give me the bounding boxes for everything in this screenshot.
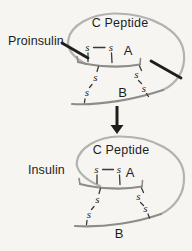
disulfide-link-tick: [142, 188, 144, 193]
disulfide-s-label: s: [142, 82, 146, 94]
disulfide-bond-line: [90, 85, 93, 88]
diagram-canvas: s s s s s s C Peptide Proinsulin A B: [0, 0, 192, 251]
disulfide-link-tick: [112, 53, 113, 63]
disulfide-s-label: s: [143, 202, 147, 214]
disulfide-s-label: s: [134, 68, 138, 80]
disulfide-s-label: s: [87, 208, 91, 220]
proinsulin-label: Proinsulin: [8, 34, 64, 48]
disulfide-s-label: s: [85, 41, 89, 53]
disulfide-s-label: s: [117, 163, 121, 175]
disulfide-s-label: s: [94, 163, 98, 175]
proinsulin-to-insulin-figure: s s s s s s C Peptide Proinsulin A B: [0, 0, 192, 251]
a-chain-end-tick: [77, 57, 78, 63]
cleavage-site-mark: [151, 61, 181, 78]
a-chain: [78, 62, 140, 67]
c-peptide-label: C Peptide: [92, 16, 149, 30]
disulfide-s-label: s: [136, 190, 140, 202]
a-chain-end-tick: [140, 59, 141, 65]
proinsulin-diagram: s s s s s s C Peptide Proinsulin A B: [8, 13, 184, 104]
insulin-diagram: s s s s s s C Peptide Insulin A B: [28, 136, 184, 241]
down-arrow-icon: [111, 106, 124, 134]
arrow-head: [111, 125, 124, 134]
a-chain-label: A: [126, 165, 135, 180]
disulfide-s-label: s: [85, 86, 89, 98]
disulfide-link-tick: [120, 175, 121, 185]
insulin-label: Insulin: [28, 163, 65, 177]
c-peptide-label: C Peptide: [93, 143, 150, 157]
a-chain-end-tick: [79, 179, 80, 185]
disulfide-s-label: s: [93, 71, 97, 83]
b-chain-label: B: [115, 226, 124, 241]
a-chain: [80, 184, 142, 189]
disulfide-link-tick: [140, 66, 142, 71]
disulfide-bond-line: [92, 207, 95, 210]
disulfide-s-label: s: [109, 41, 113, 53]
a-chain-label: A: [124, 43, 133, 58]
b-chain-label: B: [118, 85, 127, 100]
disulfide-s-label: s: [95, 193, 99, 205]
a-chain-end-tick: [142, 181, 143, 187]
disulfide-link-tick: [85, 99, 86, 103]
disulfide-link-tick: [87, 221, 88, 225]
